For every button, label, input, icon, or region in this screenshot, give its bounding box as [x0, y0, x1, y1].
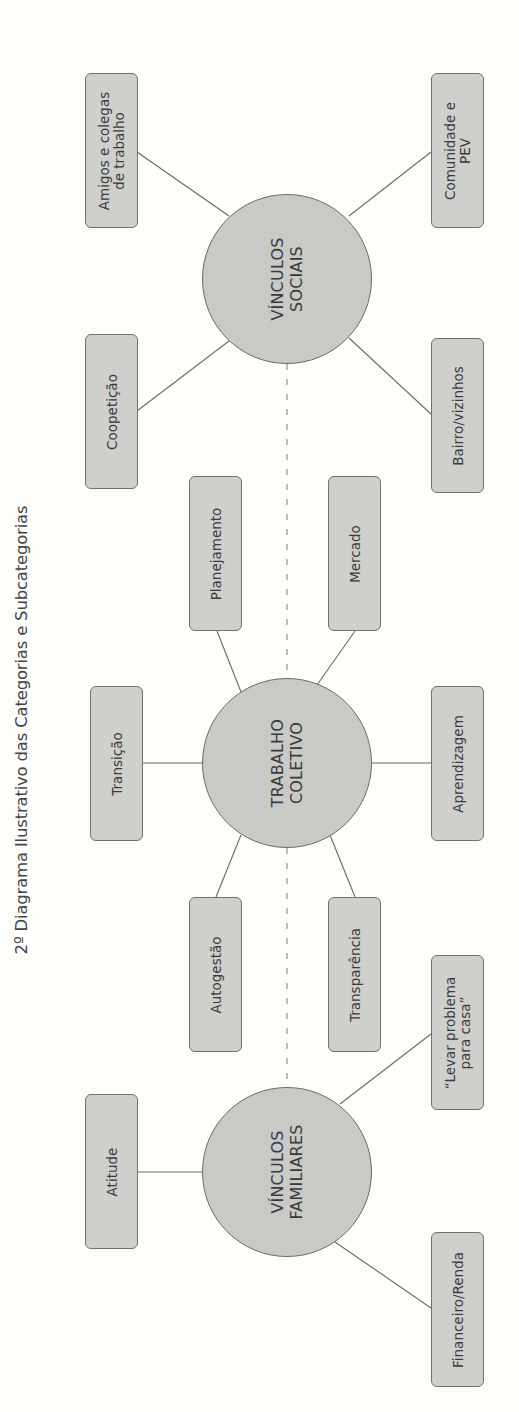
- subcategory-bairro-vizinhos: Bairro/vizinhos: [431, 338, 484, 493]
- subcategory-aprendizagem: Aprendizagem: [431, 686, 484, 841]
- category-label: TRABALHO COLETIVO: [268, 719, 306, 807]
- category-trabalho-coletivo: TRABALHO COLETIVO: [202, 678, 372, 848]
- category-label: VÍNCULOS SOCIAIS: [268, 237, 306, 320]
- category-diagram: 2º Diagrama Ilustrativo das Categorias e…: [0, 0, 519, 1412]
- subcategory-coopeticao: Coopetição: [85, 334, 138, 489]
- category-vinculos-sociais: VÍNCULOS SOCIAIS: [202, 194, 372, 364]
- diagram-title: 2º Diagrama Ilustrativo das Categorias e…: [12, 506, 31, 955]
- subcategory-mercado: Mercado: [328, 476, 381, 631]
- subcategory-comunidade-pev: Comunidade e PEV: [431, 73, 484, 228]
- subcategory-transparencia: Transparência: [328, 897, 381, 1052]
- subcategory-amigos-colegas: Amigos e colegas de trabalho: [85, 73, 138, 228]
- subcategory-autogestao: Autogestão: [189, 897, 242, 1052]
- subcategory-transicao: Transição: [90, 686, 143, 841]
- subcategory-financeiro-renda: Financeiro/Renda: [431, 1232, 484, 1387]
- subcategory-levar-problema: “Levar problema para casa”: [431, 955, 484, 1110]
- subcategory-atitude: Atitude: [85, 1094, 138, 1249]
- category-vinculos-familiares: VÍNCULOS FAMILIARES: [202, 1087, 372, 1257]
- subcategory-planejamento: Planejamento: [189, 476, 242, 631]
- category-label: VÍNCULOS FAMILIARES: [268, 1124, 306, 1219]
